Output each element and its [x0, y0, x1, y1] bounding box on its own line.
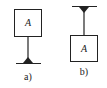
diagram-a: A a) [15, 10, 42, 84]
support-triangle-a [23, 57, 33, 63]
caption-b: b) [80, 66, 88, 78]
caption-a: a) [24, 71, 32, 83]
box-b-label: A [80, 43, 88, 54]
figure: A a) A b) [0, 0, 107, 88]
box-a-label: A [24, 17, 32, 28]
diagram-b: A b) [71, 7, 98, 79]
